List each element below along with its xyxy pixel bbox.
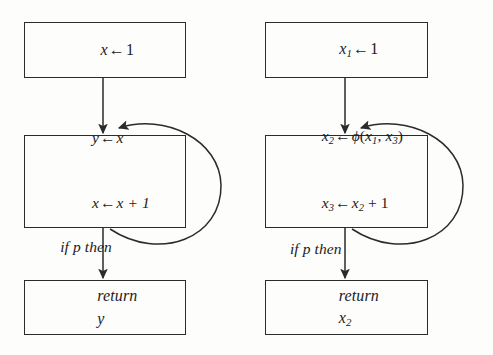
statement-return-x2: return x2 bbox=[314, 262, 379, 352]
loop-body-block-original: y←x x←x + 1 if p then bbox=[24, 135, 186, 228]
assign-arrow: ← bbox=[352, 40, 370, 57]
code-block: x2←ϕ(x1, x3) x3←x2 + 1 if p then bbox=[290, 104, 403, 260]
lhs-var: y bbox=[92, 129, 99, 146]
return-block-ssa: return x2 bbox=[265, 280, 428, 335]
return-keyword: return bbox=[97, 287, 137, 304]
statement-assign-x: x←1 bbox=[76, 16, 134, 83]
assign-arrow: ← bbox=[99, 129, 117, 146]
assign-arrow: ← bbox=[334, 127, 352, 144]
assign-arrow: ← bbox=[99, 194, 117, 211]
entry-block-original: x←1 bbox=[24, 22, 186, 78]
entry-block-ssa: x1←1 bbox=[265, 22, 428, 78]
return-value-subscript: 2 bbox=[346, 316, 352, 328]
rhs-expr: x bbox=[117, 129, 124, 146]
code-block: y←x x←x + 1 if p then bbox=[60, 106, 150, 258]
phi-function-symbol: ϕ bbox=[352, 127, 360, 144]
return-value: y bbox=[97, 310, 104, 327]
return-block-original: return y bbox=[24, 280, 186, 335]
rhs-expr: x + 1 bbox=[117, 194, 150, 211]
rhs-value: 1 bbox=[370, 40, 378, 57]
loop-body-block-ssa: x2←ϕ(x1, x3) x3←x2 + 1 if p then bbox=[265, 135, 428, 228]
rhs-value: 1 bbox=[126, 41, 134, 58]
return-keyword: return bbox=[339, 287, 379, 304]
statement-assign-x1: x1←1 bbox=[315, 16, 379, 84]
statement-if-p-then: if p then bbox=[60, 236, 112, 258]
close-paren: ) bbox=[398, 127, 403, 144]
statement-x3-increment: x3←x2 + 1 bbox=[290, 171, 389, 238]
statement-return-y: return y bbox=[73, 263, 138, 353]
return-value: x bbox=[339, 309, 346, 326]
lhs-var: x bbox=[322, 127, 329, 144]
assign-arrow: ← bbox=[108, 41, 126, 58]
assign-arrow: ← bbox=[334, 194, 352, 211]
lhs-var: x bbox=[322, 194, 329, 211]
lhs-var: x bbox=[101, 41, 108, 58]
statement-y-assign-x: y←x bbox=[60, 106, 123, 171]
statement-if-p-then: if p then bbox=[290, 238, 342, 260]
lhs-var: x bbox=[92, 194, 99, 211]
statement-x-increment: x←x + 1 bbox=[60, 171, 150, 236]
ssa-figure: x←1 y←x x←x + 1 if p then return y x1←1 … bbox=[0, 0, 493, 355]
rhs-var: x bbox=[352, 194, 359, 211]
rhs-addend: + 1 bbox=[364, 194, 389, 211]
statement-phi-assignment: x2←ϕ(x1, x3) bbox=[290, 104, 403, 171]
lhs-var: x bbox=[339, 40, 346, 57]
